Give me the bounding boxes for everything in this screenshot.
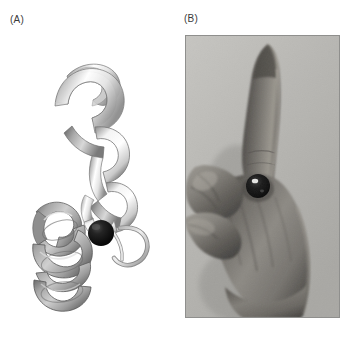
panel-a-label: (A) [10, 14, 24, 25]
panel-b-label: (B) [184, 13, 198, 24]
panel-b-photograph [185, 35, 340, 318]
hand-photograph-svg [185, 35, 340, 318]
ribbon-diagram-svg [0, 30, 179, 330]
figure-container: (A) [0, 0, 359, 341]
metal-ion-sphere [88, 220, 114, 246]
coil-tail [114, 227, 147, 265]
panel-a-ribbon-diagram [0, 30, 179, 330]
